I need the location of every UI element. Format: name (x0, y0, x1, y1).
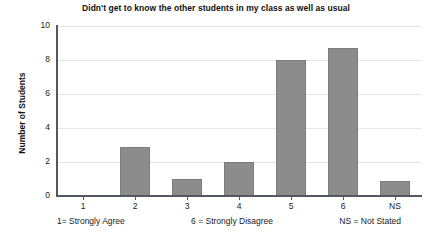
bar (276, 60, 305, 196)
x-tick-label: 2 (105, 201, 165, 211)
bar-chart: Didn't get to know the other students in… (0, 0, 432, 237)
y-tick-label: 8 (6, 54, 50, 64)
y-tick-label: 10 (6, 20, 50, 30)
x-tick-label: 4 (209, 201, 269, 211)
x-tick-mark (83, 197, 84, 200)
gridline (57, 128, 421, 129)
bar (120, 147, 149, 196)
x-tick-label: 6 (313, 201, 373, 211)
y-axis-line (56, 25, 58, 197)
key-strongly-disagree: 6 = Strongly Disagree (191, 216, 273, 226)
key-not-stated: NS = Not Stated (339, 216, 401, 226)
x-tick-label: 1 (53, 201, 113, 211)
x-tick-mark (135, 197, 136, 200)
bar (380, 181, 409, 196)
y-tick-label: 4 (6, 122, 50, 132)
chart-title: Didn't get to know the other students in… (0, 3, 432, 13)
x-tick-mark (187, 197, 188, 200)
bar (224, 162, 253, 196)
y-tick-label: 0 (6, 190, 50, 200)
bar (172, 179, 201, 196)
x-tick-label: 5 (261, 201, 321, 211)
key-strongly-agree: 1= Strongly Agree (57, 216, 125, 226)
chart-key: 1= Strongly Agree 6 = Strongly Disagree … (57, 216, 423, 226)
x-tick-mark (239, 197, 240, 200)
x-tick-label: NS (365, 201, 425, 211)
bar (328, 48, 357, 196)
y-tick-label: 6 (6, 88, 50, 98)
gridline (57, 94, 421, 95)
x-tick-mark (343, 197, 344, 200)
plot-area (57, 26, 421, 196)
x-tick-mark (291, 197, 292, 200)
y-tick-label: 2 (6, 156, 50, 166)
x-tick-mark (395, 197, 396, 200)
gridline (57, 26, 421, 27)
x-tick-label: 3 (157, 201, 217, 211)
gridline (57, 60, 421, 61)
